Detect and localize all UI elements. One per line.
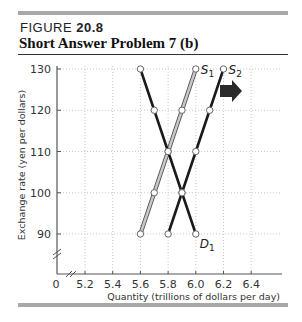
label-d1: D1	[200, 237, 215, 253]
y-tick-label: 100	[30, 187, 51, 200]
data-point-s1	[137, 231, 143, 237]
x-tick-label: 5.8	[159, 278, 177, 291]
data-point-s2	[193, 148, 199, 154]
x-tick-label: 6.4	[242, 278, 260, 291]
x-tick-label: 6.2	[215, 278, 233, 291]
label-s1: S1	[201, 63, 214, 79]
x-tick-label: 5.2	[76, 278, 94, 291]
data-point-d1	[193, 231, 199, 237]
x-tick-label: 6.0	[187, 278, 205, 291]
bottom-rule	[18, 303, 288, 307]
data-point-d1	[165, 148, 171, 154]
x-axis-label: Quantity (trillions of dollars per day)	[107, 291, 280, 302]
data-point-s2	[206, 107, 212, 113]
data-point-s2	[165, 231, 171, 237]
y-tick-label: 90	[37, 228, 51, 241]
y-tick-label: 110	[30, 146, 51, 159]
data-point-s1	[193, 66, 199, 72]
x-tick-label: 5.4	[104, 278, 122, 291]
y-tick-label: 130	[30, 63, 51, 76]
shift-arrow-icon	[220, 80, 242, 102]
data-point-d1	[179, 190, 185, 196]
data-point-d1	[137, 66, 143, 72]
y-tick-label: 120	[30, 104, 51, 117]
data-point-s2	[220, 66, 226, 72]
data-point-s1	[151, 190, 157, 196]
y-axis-label: Exchange rate (yen per dollars)	[16, 90, 27, 240]
data-point-s1	[179, 107, 185, 113]
x-tick-label: 5.6	[132, 278, 150, 291]
data-point-d1	[151, 107, 157, 113]
x-tick-label: 0	[53, 278, 60, 291]
chart: 9010011012013005.25.45.65.86.06.26.4Quan…	[0, 0, 302, 322]
label-s2: S2	[229, 63, 242, 79]
